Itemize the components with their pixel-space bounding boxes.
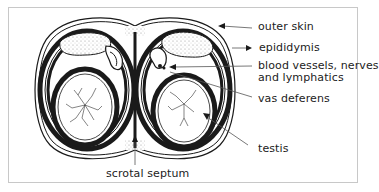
right-compartment <box>136 31 230 149</box>
label-blood-vessels-line2: and lymphatics <box>258 72 344 84</box>
label-epididymis: epididymis <box>259 42 320 54</box>
left-compartment <box>40 31 134 149</box>
label-vas-deferens: vas deferens <box>258 93 330 105</box>
label-scrotal-septum: scrotal septum <box>106 168 189 180</box>
label-outer-skin: outer skin <box>258 21 314 33</box>
label-testis: testis <box>258 143 289 155</box>
